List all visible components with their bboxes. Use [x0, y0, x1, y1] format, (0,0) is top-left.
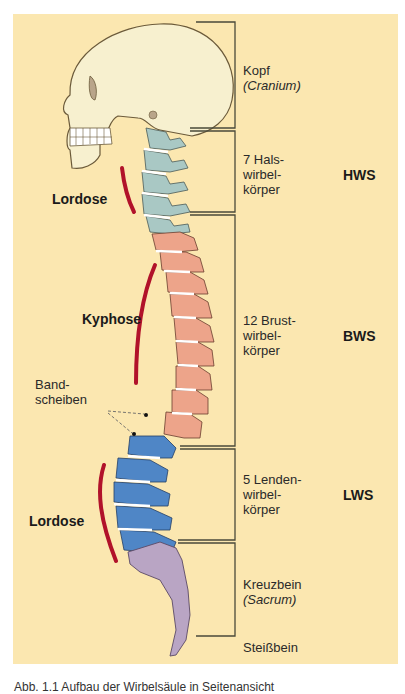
label-kreuzbein: Kreuzbein	[243, 577, 302, 592]
lumbar-vertebrae	[114, 436, 176, 552]
abbr-bws: BWS	[343, 328, 376, 344]
label-lordose-cervical: Lordose	[52, 192, 107, 207]
label-kyphose: Kyphose	[82, 312, 141, 327]
label-lenden-2: wirbel-	[243, 487, 281, 502]
label-hals-2: wirbel-	[243, 167, 281, 182]
label-line: (Cranium)	[243, 78, 301, 93]
figure-caption: Abb. 1.1 Aufbau der Wirbelsäule in Seite…	[14, 680, 274, 694]
label-hals-3: körper	[243, 182, 280, 197]
label-brust-2: wirbel-	[243, 328, 281, 343]
abbr-lws: LWS	[343, 487, 373, 503]
thoracic-vertebrae	[152, 232, 214, 438]
label-brust-1: 12 Brust-	[243, 313, 296, 328]
label-lordose-lumbar: Lordose	[29, 514, 84, 529]
abbr-hws: HWS	[343, 167, 376, 183]
label-lenden-3: körper	[243, 502, 280, 517]
label-sacrum: (Sacrum)	[243, 592, 296, 607]
label-lenden-1: 5 Lenden-	[243, 472, 302, 487]
disc-markers	[132, 413, 148, 436]
sacrum	[128, 542, 190, 656]
label-bandscheiben-1: Band-	[35, 377, 70, 392]
skull	[64, 24, 234, 169]
label-brust-3: körper	[243, 343, 280, 358]
label-bandscheiben-2: scheiben	[35, 392, 87, 407]
label-cranium: (Cranium)	[243, 78, 301, 93]
label-hals-1: 7 Hals-	[243, 152, 284, 167]
label-steissbein: Steißbein	[243, 640, 298, 655]
label-line: Kopf	[243, 63, 270, 78]
label-kopf: Kopf	[243, 63, 270, 78]
